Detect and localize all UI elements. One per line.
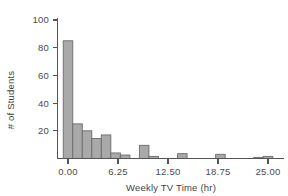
- histogram-bar: [111, 153, 121, 159]
- x-axis-title: Weekly TV Time (hr): [126, 182, 216, 193]
- y-tick-label: 60: [38, 70, 49, 81]
- histogram-bar: [178, 154, 188, 159]
- x-tick-label: 0.00: [58, 166, 77, 177]
- x-tick-label: 12.50: [156, 166, 181, 177]
- histogram-bar: [73, 124, 83, 159]
- x-tick-label: 18.75: [206, 166, 231, 177]
- y-axis-title: # of Students: [5, 71, 16, 130]
- histogram-bar: [92, 138, 102, 158]
- y-tick-label: 100: [33, 14, 49, 25]
- histogram-bar: [216, 154, 226, 158]
- histogram-chart: 20406080100 0.006.2512.5018.7525.00 Week…: [0, 0, 288, 196]
- histogram-bar: [139, 145, 149, 158]
- histogram-bar: [101, 135, 111, 159]
- histogram-bar: [63, 41, 73, 159]
- histogram-bar: [82, 131, 92, 159]
- chart-svg: 20406080100 0.006.2512.5018.7525.00 Week…: [0, 0, 288, 196]
- y-tick-label: 40: [38, 98, 49, 109]
- x-tick-label: 25.00: [256, 166, 281, 177]
- y-tick-label: 80: [38, 42, 49, 53]
- x-tick-label: 6.25: [108, 166, 127, 177]
- y-tick-label: 20: [38, 125, 49, 136]
